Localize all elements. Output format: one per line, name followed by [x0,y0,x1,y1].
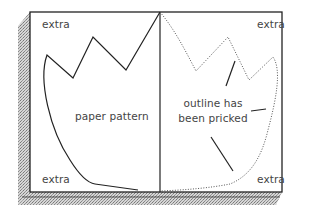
pricked-label-line2: been pricked [178,111,248,126]
pricked-label: outline has been pricked [178,96,248,126]
corner-label-top-right: extra [257,18,285,30]
corner-label-bottom-right: extra [257,173,285,185]
corner-label-bottom-left: extra [42,173,70,185]
paper-pattern-label: paper pattern [75,110,149,122]
board-bottom-edge [18,192,282,205]
pricked-label-line1: outline has [178,96,248,111]
corner-label-top-left: extra [42,18,70,30]
board-left-edge [18,12,30,205]
